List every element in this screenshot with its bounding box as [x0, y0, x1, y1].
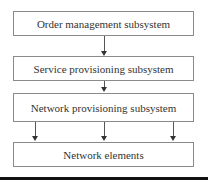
network-provisioning-label: Network provisioning subsystem	[31, 102, 176, 114]
network-provisioning-box: Network provisioning subsystem	[13, 93, 194, 122]
arrowhead-icon	[170, 136, 176, 141]
service-provisioning-label: Service provisioning subsystem	[34, 63, 174, 75]
arrow-order-to-service	[104, 36, 105, 52]
arrowhead-icon	[101, 87, 107, 92]
arrow-center-to-elements	[104, 122, 105, 137]
arrow-right-to-elements	[173, 122, 174, 137]
order-management-label: Order management subsystem	[37, 18, 170, 30]
order-management-box: Order management subsystem	[13, 11, 194, 36]
service-provisioning-box: Service provisioning subsystem	[13, 56, 194, 81]
arrowhead-icon	[32, 136, 38, 141]
network-elements-box: Network elements	[13, 142, 194, 167]
arrowhead-icon	[101, 136, 107, 141]
bottom-rule	[0, 177, 208, 180]
network-elements-label: Network elements	[63, 149, 143, 161]
arrow-left-to-elements	[35, 122, 36, 137]
